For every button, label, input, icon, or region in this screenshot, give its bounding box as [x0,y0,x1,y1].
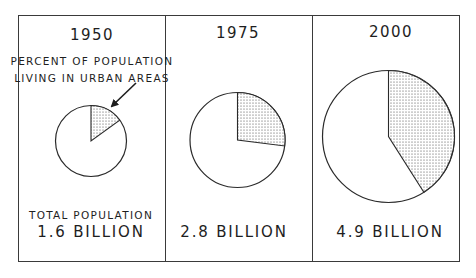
pie-charts [0,0,476,278]
pie-1975 [190,93,285,188]
urban-slice-1975 [238,93,286,146]
urban-population-figure: 1950 PERCENT OF POPULATION LIVING IN URB… [0,0,476,278]
annotation-arrow-icon [112,83,136,106]
pie-2000 [323,71,455,203]
pie-1950 [56,106,127,177]
